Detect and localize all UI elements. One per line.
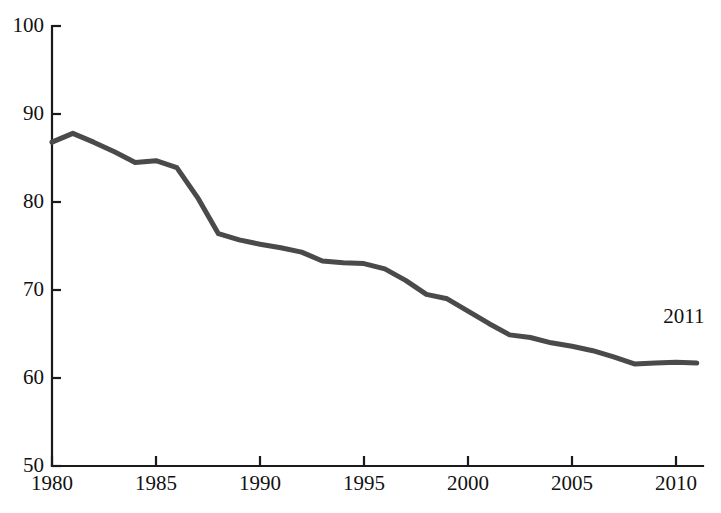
y-tick-label-90: 90 bbox=[23, 101, 44, 125]
x-tick-label-2005: 2005 bbox=[551, 471, 593, 495]
x-tick-label-2000: 2000 bbox=[447, 471, 489, 495]
endpoint-year-label: 2011 bbox=[663, 304, 704, 328]
x-tick-label-1985: 1985 bbox=[135, 471, 177, 495]
y-tick-label-60: 60 bbox=[23, 365, 44, 389]
chart-annotations: 2011 bbox=[663, 304, 704, 328]
x-tick-label-2010: 2010 bbox=[655, 471, 697, 495]
line-chart: 5060708090100 19801985199019952000200520… bbox=[0, 0, 721, 513]
x-tick-label-1980: 1980 bbox=[31, 471, 73, 495]
y-tick-label-100: 100 bbox=[13, 13, 45, 37]
x-tick-label-1995: 1995 bbox=[343, 471, 385, 495]
x-tick-label-1990: 1990 bbox=[239, 471, 281, 495]
y-tick-label-80: 80 bbox=[23, 189, 44, 213]
y-tick-label-70: 70 bbox=[23, 277, 44, 301]
chart-background bbox=[0, 0, 721, 513]
chart-container: 5060708090100 19801985199019952000200520… bbox=[0, 0, 721, 513]
